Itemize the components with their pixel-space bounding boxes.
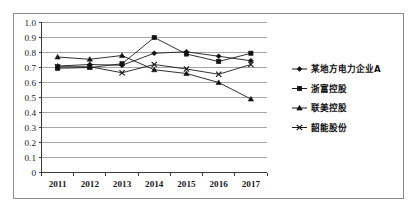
y-tick-label: 0 [31,168,36,178]
x-axis-tick-labels: 2011201220132014201520162017 [49,179,261,189]
data-point [216,54,221,59]
x-tick-label: 2015 [177,179,196,189]
x-tick-label: 2017 [242,179,261,189]
chart-figure: 1.00.90.80.70.60.50.40.30.20.10 20112012… [0,0,418,212]
data-point [152,51,157,56]
y-tick-label: 0.2 [25,138,37,148]
axes [39,23,268,177]
data-point [248,96,253,101]
y-tick-label: 0.8 [25,48,37,58]
x-tick-label: 2013 [113,179,132,189]
data-point [152,35,156,39]
x-tick-label: 2011 [49,179,67,189]
x-tick-label: 2016 [209,179,228,189]
data-point [217,59,221,63]
chart-legend: 某地方电力企业A浙富控股联美控股韶能股份 [292,63,381,133]
y-tick-label: 0.3 [25,123,37,133]
line-chart: 1.00.90.80.70.60.50.40.30.20.10 20112012… [0,0,418,212]
legend-label: 某地方电力企业A [311,63,381,74]
y-tick-label: 0.1 [25,153,37,163]
x-tick-label: 2014 [145,179,164,189]
legend-item-2[interactable]: 浙富控股 [292,83,347,94]
legend-label: 浙富控股 [311,83,347,94]
data-point [119,53,124,58]
data-series [55,35,254,101]
data-point [184,52,188,56]
legend-label: 韶能股份 [311,122,347,133]
legend-item-4[interactable]: 韶能股份 [292,122,347,133]
y-tick-label: 1.0 [25,18,37,28]
y-tick-label: 0.4 [25,108,37,118]
series-line [58,56,251,100]
data-point [249,51,253,55]
y-axis-tick-labels: 1.00.90.80.70.60.50.40.30.20.10 [25,18,37,178]
legend-marker-diamond-icon [297,66,302,71]
y-tick-label: 0.7 [25,63,37,73]
y-tick-label: 0.9 [25,33,37,43]
legend-marker-square-icon [297,86,301,90]
x-tick-label: 2012 [81,179,100,189]
y-tick-label: 0.5 [25,93,37,103]
legend-item-3[interactable]: 联美控股 [292,102,347,113]
data-point [120,62,124,66]
legend-item-1[interactable]: 某地方电力企业A [292,63,381,74]
legend-label: 联美控股 [311,102,347,113]
y-tick-label: 0.6 [25,78,37,88]
